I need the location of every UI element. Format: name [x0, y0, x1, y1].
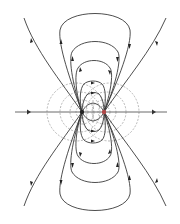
left-charge [80, 110, 84, 114]
dipole-field-diagram [0, 0, 180, 224]
right-charge [102, 110, 106, 114]
